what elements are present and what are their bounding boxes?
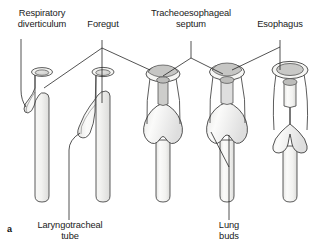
foregut-tube-2: [78, 72, 110, 202]
stage-1-respiratory-diverticulum: [24, 68, 53, 202]
esophageal-lumen-3: [148, 65, 178, 77]
trachea-stem-3: [156, 140, 170, 202]
esophagus-lumen-5: [277, 64, 304, 76]
foregut-lumen-2: [96, 70, 110, 76]
stage-5-separated: [272, 61, 308, 202]
panel-letter: a: [7, 224, 12, 234]
leader-laryngotracheal-tube: [69, 133, 80, 220]
leader-esophagus-branch: [232, 47, 280, 70]
trachea-stem-5: [283, 146, 297, 202]
esophagus-wall-right-5: [304, 74, 308, 130]
lung-bud-mass-3: [144, 103, 183, 144]
foregut-lumen-1: [35, 70, 49, 75]
trachea-neck-5: [284, 82, 296, 108]
lung-bud-mass-4: [207, 102, 248, 143]
label-esophagus: Esophagus: [245, 19, 315, 30]
anatomical-figure-panel: Respiratory diverticulum Foregut Tracheo…: [0, 0, 322, 251]
anatomy-artwork: [0, 0, 322, 251]
trachea-lumen-5: [283, 79, 297, 86]
label-tracheoesophageal-septum: Tracheoesophageal septum: [141, 8, 241, 29]
leader-foregut-left: [44, 48, 102, 88]
stage-4-septum-advancing: [207, 63, 248, 202]
label-foregut: Foregut: [70, 19, 136, 30]
leader-foregut-right: [102, 48, 150, 70]
esophagus-wall-left-5: [273, 74, 276, 130]
label-laryngotracheal-tube: Laryngotracheal tube: [24, 220, 116, 241]
label-lung-buds: Lung buds: [205, 220, 253, 241]
stage-3-septum-forming: [144, 65, 183, 202]
trachea-stem-4: [220, 140, 234, 202]
leader-respiratory-diverticulum: [21, 39, 26, 107]
stage-2-laryngotracheal-tube: [78, 67, 114, 202]
tracheoesophageal-septum-3: [158, 80, 168, 106]
foregut-tube-1: [24, 72, 49, 202]
tracheal-lumen-4: [220, 77, 234, 84]
tracheal-lumen-3: [157, 77, 170, 83]
